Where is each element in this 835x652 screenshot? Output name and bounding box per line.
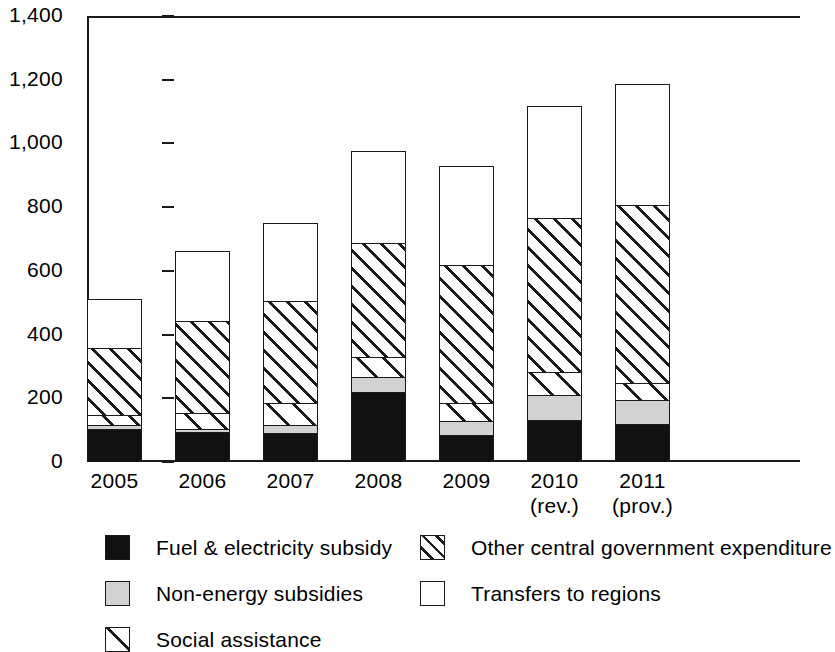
bar-stack (87, 299, 142, 462)
bar-segment-non-energy-subsidies (439, 421, 494, 435)
x-label-sub: (prov.) (583, 493, 703, 518)
bar-segment-fuel-electricity-subsidy (175, 432, 230, 462)
legend-item-transfers-to-regions: Transfers to regions (420, 581, 661, 606)
bar-segment-other-central-government-expenditure (175, 321, 230, 413)
bar-segment-other-central-government-expenditure (263, 301, 318, 403)
x-label-main: 2005 (91, 469, 139, 492)
legend-item-other-central-government-expenditure: Other central government expenditure (420, 535, 832, 560)
bar-segment-non-energy-subsidies (615, 400, 670, 424)
bar-segment-other-central-government-expenditure (87, 348, 142, 415)
bar-segment-transfers-to-regions (351, 151, 406, 242)
bar-2011-prov- (615, 84, 670, 462)
x-label-main: 2011 (619, 469, 665, 492)
bar-stack (263, 223, 318, 462)
bar-stack (527, 106, 582, 462)
legend-label: Social assistance (156, 627, 322, 652)
x-label-main: 2009 (443, 469, 491, 492)
legend-label: Other central government expenditure (471, 535, 832, 560)
stacked-bar-chart: 0 200 400 600 800 1,000 1,200 1,400 (0, 0, 835, 525)
bar-stack (439, 166, 494, 462)
bar-segment-fuel-electricity-subsidy (527, 420, 582, 462)
legend-label: Transfers to regions (471, 581, 661, 606)
legend-item-non-energy-subsidies: Non-energy subsidies (105, 581, 363, 606)
bar-segment-transfers-to-regions (615, 84, 670, 204)
bar-segment-social-assistance (175, 413, 230, 428)
bar-segment-fuel-electricity-subsidy (351, 392, 406, 462)
solid-white-swatch-icon (420, 581, 445, 606)
bar-segment-other-central-government-expenditure (351, 243, 406, 357)
x-label-main: 2007 (267, 469, 315, 492)
legend-item-fuel-electricity-subsidy: Fuel & electricity subsidy (105, 535, 392, 560)
bar-segment-fuel-electricity-subsidy (615, 424, 670, 462)
chart-legend: Fuel & electricity subsidy Other central… (0, 525, 835, 651)
x-label-main: 2006 (179, 469, 227, 492)
solid-gray-swatch-icon (105, 581, 130, 606)
legend-label: Fuel & electricity subsidy (156, 535, 392, 560)
bars-layer (0, 0, 835, 480)
bar-2010-rev- (527, 106, 582, 462)
bar-segment-non-energy-subsidies (527, 395, 582, 420)
bar-segment-transfers-to-regions (439, 166, 494, 264)
x-label-main: 2010 (531, 469, 579, 492)
x-label-2011: 2011 (prov.) (583, 468, 703, 518)
sparse-hatch-swatch-icon (105, 627, 130, 652)
bar-segment-fuel-electricity-subsidy (87, 429, 142, 462)
bar-segment-transfers-to-regions (527, 106, 582, 218)
legend-item-social-assistance: Social assistance (105, 627, 322, 652)
bar-segment-social-assistance (351, 357, 406, 377)
bar-segment-transfers-to-regions (87, 299, 142, 347)
bar-stack (615, 84, 670, 462)
bar-segment-fuel-electricity-subsidy (263, 433, 318, 462)
bar-segment-transfers-to-regions (175, 251, 230, 321)
bar-segment-social-assistance (87, 415, 142, 425)
dense-hatch-swatch-icon (420, 535, 445, 560)
bar-segment-social-assistance (263, 403, 318, 425)
x-label-main: 2008 (355, 469, 403, 492)
bar-segment-other-central-government-expenditure (615, 205, 670, 383)
bar-stack (175, 251, 230, 462)
bar-segment-non-energy-subsidies (351, 377, 406, 392)
bar-stack (351, 151, 406, 462)
bar-segment-other-central-government-expenditure (527, 218, 582, 372)
bar-segment-transfers-to-regions (263, 223, 318, 301)
bar-2006 (175, 251, 230, 462)
bar-segment-social-assistance (527, 372, 582, 395)
bar-2009 (439, 166, 494, 462)
bar-2008 (351, 151, 406, 462)
bar-2007 (263, 223, 318, 462)
legend-label: Non-energy subsidies (156, 581, 363, 606)
bar-segment-fuel-electricity-subsidy (439, 435, 494, 462)
bar-segment-social-assistance (439, 403, 494, 421)
bar-segment-social-assistance (615, 383, 670, 400)
bar-segment-non-energy-subsidies (263, 425, 318, 433)
solid-black-swatch-icon (105, 535, 130, 560)
bar-2005 (87, 299, 142, 462)
bar-segment-other-central-government-expenditure (439, 265, 494, 404)
